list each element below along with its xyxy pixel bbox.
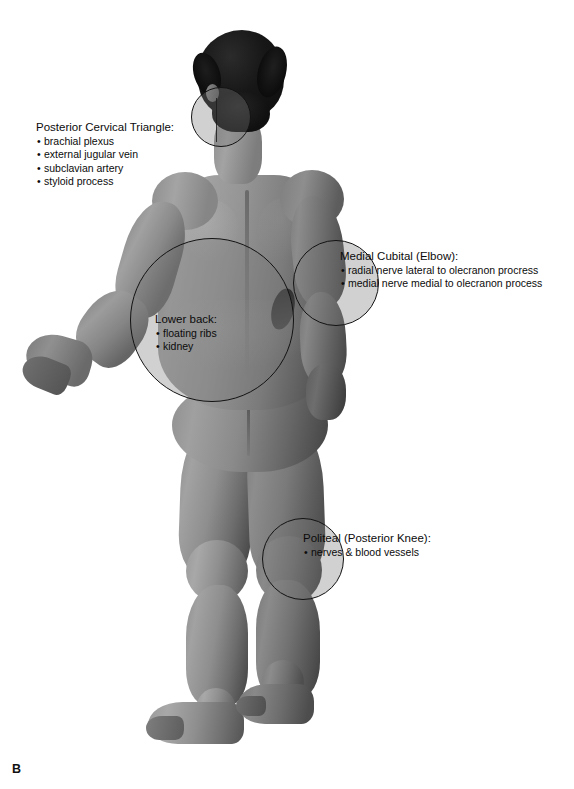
annotation-item: kidney bbox=[155, 340, 217, 353]
highlight-circle-posterior-cervical-triangle bbox=[191, 87, 251, 147]
annotation-title: Posterior Cervical Triangle: bbox=[36, 120, 174, 135]
right-toes bbox=[236, 696, 266, 716]
annotation-title: Lower back: bbox=[155, 312, 217, 327]
annotation-lower-back: Lower back: floating ribs kidney bbox=[155, 312, 217, 354]
annotation-items: brachial plexus external jugular vein su… bbox=[36, 135, 174, 189]
annotation-item: floating ribs bbox=[155, 327, 217, 340]
cervical-leader-line bbox=[216, 98, 217, 142]
annotation-item: medial nerve medial to olecranon process bbox=[340, 277, 542, 290]
annotation-medial-cubital: Medial Cubital (Elbow): radial nerve lat… bbox=[340, 249, 542, 291]
annotation-item: radial nerve lateral to olecranon procre… bbox=[340, 264, 542, 277]
annotation-item: subclavian artery bbox=[36, 162, 174, 175]
annotation-title: Medial Cubital (Elbow): bbox=[340, 249, 542, 264]
annotation-item: nerves & blood vessels bbox=[303, 546, 431, 559]
annotation-items: nerves & blood vessels bbox=[303, 546, 431, 559]
human-figure-posterior-view bbox=[0, 0, 574, 789]
annotation-item: styloid process bbox=[36, 175, 174, 188]
annotation-items: floating ribs kidney bbox=[155, 327, 217, 354]
figure-canvas: Posterior Cervical Triangle: brachial pl… bbox=[0, 0, 574, 789]
annotation-posterior-cervical-triangle: Posterior Cervical Triangle: brachial pl… bbox=[36, 120, 174, 188]
left-calf bbox=[186, 585, 248, 705]
annotation-item: external jugular vein bbox=[36, 148, 174, 161]
panel-label: B bbox=[12, 762, 21, 776]
right-hand bbox=[306, 364, 346, 420]
left-toes bbox=[146, 716, 184, 740]
annotation-items: radial nerve lateral to olecranon procre… bbox=[340, 264, 542, 291]
annotation-popliteal: Politeal (Posterior Knee): nerves & bloo… bbox=[303, 531, 431, 559]
annotation-title: Politeal (Posterior Knee): bbox=[303, 531, 431, 546]
annotation-item: brachial plexus bbox=[36, 135, 174, 148]
